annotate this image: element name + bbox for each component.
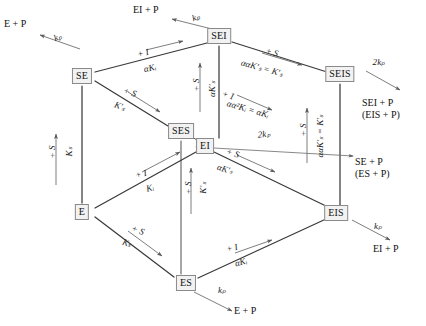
- vlabel-se-e-constant: Kₛ: [64, 147, 74, 156]
- vlabel-ses-es-species: + S: [183, 181, 193, 194]
- product-line-1: E + P: [234, 305, 256, 317]
- product-E-P-bottom: E + P: [234, 305, 256, 317]
- node-SEI[interactable]: SEI: [207, 28, 231, 44]
- diagram-canvas: SE SEI SES SEIS EI E ES EIS + I αKᵢ + S …: [0, 0, 426, 326]
- vlabel-ses-es-constant: K′ₛ: [198, 182, 208, 193]
- node-EIS[interactable]: EIS: [324, 205, 348, 221]
- rate-label-2kp-SES: 2kₚ: [257, 128, 271, 139]
- arrow-ei-eis-inner: [237, 155, 275, 172]
- arrow-kp-ES: [194, 292, 232, 311]
- arrow-e-ei: [142, 152, 180, 172]
- vlabel-se-e-species: + S: [47, 145, 57, 158]
- product-line-1: SE + P: [355, 156, 390, 168]
- vlabel-sei-ei-species: + S: [191, 78, 201, 91]
- node-SE[interactable]: SE: [72, 68, 92, 84]
- rate-label-kp-EIS: kₚ: [374, 221, 382, 231]
- edge-label-e-ei-constant: Kᵢ: [145, 182, 155, 194]
- node-SES[interactable]: SES: [168, 123, 194, 139]
- arrow-se-sei: [146, 41, 183, 50]
- edge-ei-eis: [214, 152, 328, 207]
- vlabel-seis-eis-constant: ααK′ₛ = K′ₛ: [315, 114, 325, 157]
- product-EI-P-top: EI + P: [133, 4, 159, 16]
- node-EI[interactable]: EI: [196, 138, 214, 154]
- product-SE-P: SE + P (ES + P): [355, 156, 390, 179]
- arrow-2kp-SEIS: [366, 71, 400, 90]
- edge-es-eis: [198, 219, 326, 278]
- product-E-P-topleft: E + P: [4, 18, 26, 30]
- rate-label-kp-ES: kₚ: [218, 285, 226, 295]
- arrow-e-es: [128, 231, 162, 256]
- product-line-1: E + P: [4, 18, 26, 30]
- rate-label-2kp-SEIS: 2kₚ: [373, 57, 386, 67]
- node-SEIS[interactable]: SEIS: [325, 66, 354, 82]
- node-ES[interactable]: ES: [176, 275, 196, 291]
- product-line-1: SEI + P: [362, 97, 400, 109]
- product-EI-P-right: EI + P: [373, 243, 399, 255]
- product-SEI-P: SEI + P (EIS + P): [362, 97, 400, 120]
- arrow-kp-EIS: [352, 220, 390, 240]
- node-E[interactable]: E: [75, 204, 89, 220]
- vlabel-sei-ei-constant: αK′ₛ: [207, 81, 217, 97]
- product-line-2: (EIS + P): [362, 109, 400, 121]
- vlabel-seis-eis-species: + S: [298, 123, 308, 136]
- product-line-2: (ES + P): [355, 168, 390, 180]
- product-line-1: EI + P: [133, 4, 159, 16]
- product-line-1: EI + P: [373, 243, 399, 255]
